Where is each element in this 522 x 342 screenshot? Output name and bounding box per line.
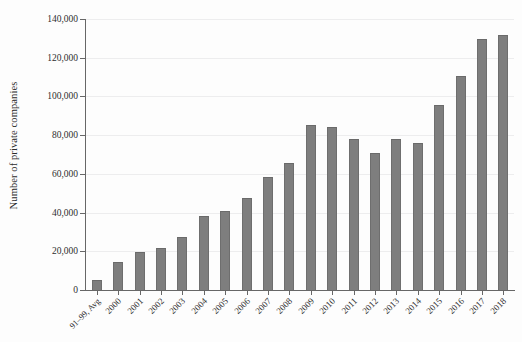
x-tick-mark	[161, 291, 162, 295]
x-tick-mark	[332, 291, 333, 295]
y-axis-title: Number of private companies	[0, 0, 28, 290]
y-tick-label: 140,000	[28, 14, 78, 24]
y-tick-label: 100,000	[28, 91, 78, 101]
bar	[177, 237, 187, 290]
x-tick-label: 2000	[103, 296, 123, 316]
y-axis-title-label: Number of private companies	[9, 81, 20, 209]
bar	[135, 252, 145, 290]
y-tick-mark	[80, 96, 85, 97]
bar-chart: Number of private companies 020,00040,00…	[0, 0, 522, 342]
bar	[263, 177, 273, 290]
x-tick-label: 2015	[424, 296, 444, 316]
bar	[156, 248, 166, 290]
x-tick-mark	[97, 291, 98, 295]
bar	[434, 105, 444, 290]
plot-area	[86, 19, 514, 290]
y-tick-mark	[80, 19, 85, 20]
bar	[242, 198, 252, 290]
x-tick-label: 2009	[296, 296, 316, 316]
y-tick-mark	[80, 290, 85, 291]
x-tick-mark	[396, 291, 397, 295]
y-tick-label: 60,000	[28, 169, 78, 179]
x-tick-mark	[418, 291, 419, 295]
y-tick-mark	[80, 174, 85, 175]
x-tick-mark	[503, 291, 504, 295]
bar	[327, 127, 337, 290]
y-tick-mark	[80, 213, 85, 214]
gridline	[86, 96, 514, 97]
x-tick-label: 2012	[360, 296, 380, 316]
y-tick-mark	[80, 135, 85, 136]
x-tick-mark	[140, 291, 141, 295]
x-tick-label: 2010	[317, 296, 337, 316]
y-tick-label: 40,000	[28, 208, 78, 218]
y-tick-mark	[80, 251, 85, 252]
x-tick-label: 2008	[275, 296, 295, 316]
x-tick-mark	[461, 291, 462, 295]
x-tick-label: 91–99, Avg	[67, 296, 102, 331]
x-tick-label: 2007	[253, 296, 273, 316]
bar	[220, 211, 230, 290]
bar	[370, 153, 380, 290]
x-axis-line	[85, 290, 515, 291]
x-tick-label: 2013	[382, 296, 402, 316]
gridline	[86, 213, 514, 214]
x-tick-label: 2006	[232, 296, 252, 316]
x-tick-label: 2005	[210, 296, 230, 316]
y-tick-mark	[80, 58, 85, 59]
bar	[413, 143, 423, 290]
x-tick-mark	[354, 291, 355, 295]
gridline	[86, 174, 514, 175]
x-tick-label: 2016	[446, 296, 466, 316]
x-tick-label: 2014	[403, 296, 423, 316]
bar	[391, 139, 401, 290]
x-tick-mark	[182, 291, 183, 295]
y-tick-label: 80,000	[28, 130, 78, 140]
bar	[306, 125, 316, 291]
x-tick-mark	[439, 291, 440, 295]
bar	[349, 139, 359, 290]
bar	[92, 280, 102, 290]
x-tick-mark	[268, 291, 269, 295]
bar	[113, 262, 123, 290]
x-tick-mark	[118, 291, 119, 295]
gridline	[86, 135, 514, 136]
x-tick-mark	[482, 291, 483, 295]
x-tick-mark	[289, 291, 290, 295]
y-tick-label: 20,000	[28, 246, 78, 256]
x-tick-mark	[311, 291, 312, 295]
x-tick-mark	[204, 291, 205, 295]
bar	[456, 76, 466, 290]
x-tick-label: 2017	[467, 296, 487, 316]
x-tick-label: 2003	[168, 296, 188, 316]
x-tick-mark	[225, 291, 226, 295]
x-tick-label: 2002	[146, 296, 166, 316]
x-tick-label: 2018	[489, 296, 509, 316]
gridline	[86, 251, 514, 252]
bar	[477, 39, 487, 290]
bar	[199, 216, 209, 290]
x-tick-mark	[247, 291, 248, 295]
y-tick-label: 120,000	[28, 53, 78, 63]
x-tick-mark	[375, 291, 376, 295]
x-tick-label: 2001	[125, 296, 145, 316]
y-tick-label: 0	[28, 285, 78, 295]
gridline	[86, 58, 514, 59]
x-tick-label: 2011	[339, 296, 359, 316]
gridline	[86, 19, 514, 20]
bar	[498, 35, 508, 291]
x-tick-label: 2004	[189, 296, 209, 316]
bar	[284, 163, 294, 290]
